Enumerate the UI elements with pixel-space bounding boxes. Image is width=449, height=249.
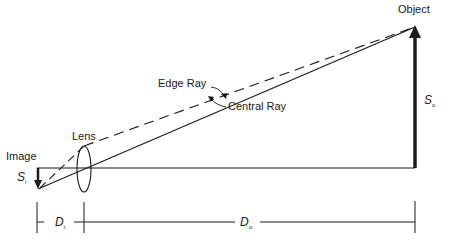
image-distance-symbol: D i xyxy=(55,215,65,230)
svg-text:S: S xyxy=(424,93,432,107)
image-size-symbol: S i xyxy=(17,170,26,185)
object-size-symbol: S o xyxy=(424,93,436,108)
central-ray-pointer xyxy=(208,96,226,107)
object-distance-symbol: D o xyxy=(240,215,253,230)
svg-text:i: i xyxy=(64,224,65,230)
lens-label: Lens xyxy=(72,130,96,142)
image-arrow xyxy=(34,168,42,189)
svg-text:S: S xyxy=(17,170,25,184)
lens-diagram: Object Edge Ray Central Ray Lens Image S… xyxy=(0,0,449,249)
edge-ray-label: Edge Ray xyxy=(158,77,207,89)
object-arrow xyxy=(409,25,421,168)
edge-ray-line-2 xyxy=(84,28,412,146)
svg-text:i: i xyxy=(25,179,26,185)
dimension-lines xyxy=(37,201,415,233)
object-label: Object xyxy=(398,3,430,15)
svg-text:D: D xyxy=(55,215,64,229)
svg-text:D: D xyxy=(240,215,249,229)
central-ray-line xyxy=(38,27,415,189)
central-ray-label: Central Ray xyxy=(228,100,287,112)
svg-text:o: o xyxy=(432,102,436,108)
svg-text:o: o xyxy=(249,224,253,230)
image-label: Image xyxy=(6,150,37,162)
